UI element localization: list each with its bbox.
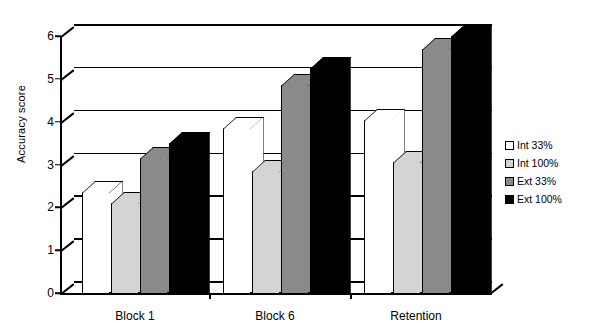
y-tick-label-1: 1 [47, 244, 54, 256]
legend-swatch-icon [505, 195, 514, 204]
bar-block6-int33 [223, 128, 251, 293]
legend-label: Int 100% [517, 158, 558, 169]
bar-side-face [478, 25, 492, 293]
bar-retention-int100 [393, 162, 421, 293]
y-tick-label-5: 5 [47, 73, 54, 85]
x-axis-label-block6: Block 6 [215, 309, 335, 323]
y-tick-label-6: 6 [47, 30, 54, 42]
grid-connector-1 [61, 240, 75, 251]
bar-block1-int33 [82, 192, 110, 293]
legend-label: Int 33% [517, 140, 553, 151]
legend: Int 33% Int 100% Ext 33% Ext 100% [505, 136, 562, 208]
bar-block6-ext100 [310, 68, 338, 293]
x-tick-mark-0 [209, 293, 211, 299]
y-axis-title: Accuracy score [15, 59, 27, 189]
bar-side-face [337, 57, 351, 293]
plot-area: 6 5 4 3 2 1 0 [60, 36, 492, 293]
legend-item-int33: Int 33% [505, 136, 562, 154]
y-tick-label-0: 0 [47, 287, 54, 299]
bar-retention-ext100 [451, 36, 479, 293]
y-tick-label-3: 3 [47, 159, 54, 171]
bar-block1-ext100 [169, 143, 197, 293]
bar-retention-int33 [364, 120, 392, 294]
x-axis-label-block1: Block 1 [75, 309, 195, 323]
bar-block1-int100 [111, 203, 139, 293]
grid-connector-5 [61, 69, 75, 80]
x-axis-line [60, 293, 492, 295]
bar-block6-ext33 [281, 85, 309, 293]
y-tick-label-2: 2 [47, 201, 54, 213]
bar-block1-ext33 [140, 158, 168, 293]
bar-side-face [196, 132, 210, 293]
gridline-6 [74, 24, 492, 26]
grid-connector-3 [61, 155, 75, 166]
grid-connector-6 [61, 26, 75, 37]
legend-item-ext100: Ext 100% [505, 190, 562, 208]
floor-right-edge [490, 283, 504, 294]
x-axis-label-retention: Retention [356, 309, 476, 323]
legend-swatch-icon [505, 141, 514, 150]
legend-item-int100: Int 100% [505, 154, 562, 172]
legend-swatch-icon [505, 159, 514, 168]
grid-connector-2 [61, 198, 75, 209]
grid-connector-4 [61, 112, 75, 123]
bar-retention-ext33 [422, 49, 450, 293]
legend-label: Ext 100% [517, 194, 562, 205]
legend-label: Ext 33% [517, 176, 556, 187]
legend-swatch-icon [505, 177, 514, 186]
bar-chart: Accuracy score 6 5 4 3 2 1 [0, 0, 607, 324]
legend-item-ext33: Ext 33% [505, 172, 562, 190]
y-tick-label-4: 4 [47, 116, 54, 128]
bar-block6-int100 [252, 171, 280, 293]
x-tick-mark-1 [350, 293, 352, 299]
